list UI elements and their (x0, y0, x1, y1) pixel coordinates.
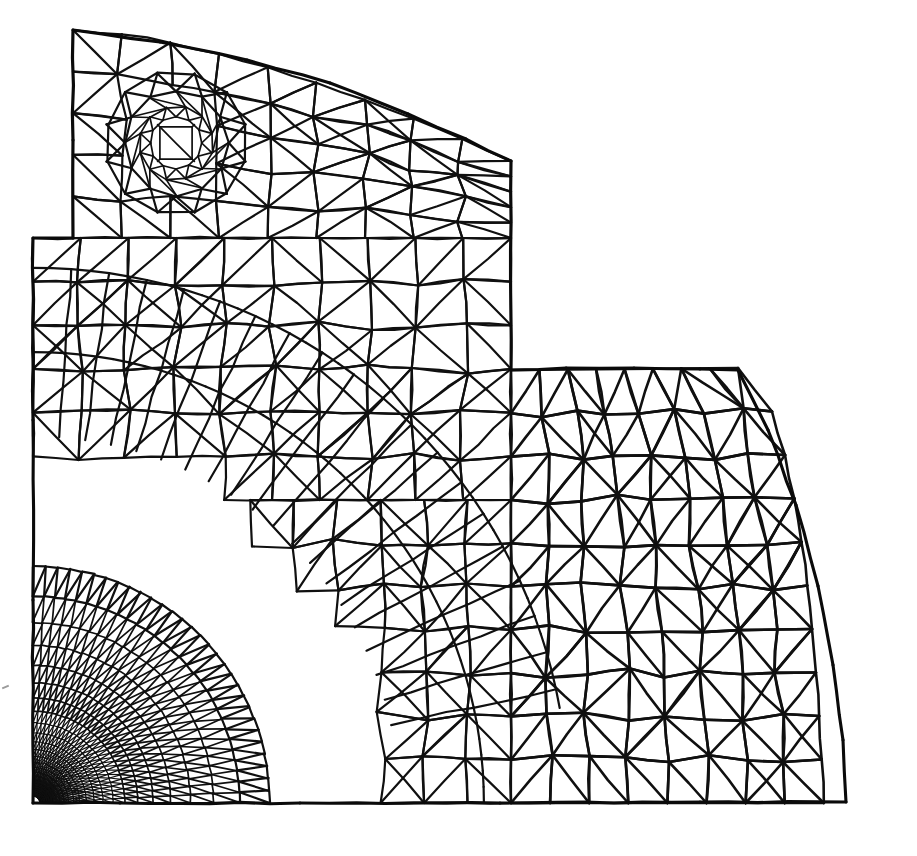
mesh-edge (69, 670, 76, 672)
mesh-edge (42, 645, 50, 647)
mesh-edge (226, 729, 259, 730)
mesh-edge (95, 735, 98, 738)
mesh-edge (777, 629, 812, 630)
mesh-edge (739, 630, 743, 674)
mesh-edge (584, 495, 617, 547)
mesh-edge (151, 784, 152, 791)
mesh-edge (700, 671, 705, 720)
mesh-edge (102, 794, 112, 795)
mesh-canvas (0, 0, 917, 856)
mesh-edge (322, 281, 370, 283)
mesh-edge (166, 768, 188, 771)
mesh-edge (268, 172, 313, 207)
mesh-edge (700, 630, 739, 671)
mesh-edge (367, 125, 410, 141)
mesh-edge (467, 323, 511, 369)
mesh-edge (583, 675, 588, 713)
mesh-edge (243, 695, 249, 706)
mesh-edge (384, 399, 398, 412)
mesh-edge (125, 143, 131, 168)
mesh-edge (106, 578, 118, 582)
mesh-edge (192, 627, 200, 635)
mesh-edge (236, 753, 265, 760)
mesh-edge (511, 543, 549, 546)
mesh-edge (214, 92, 217, 126)
mesh-edge (124, 457, 177, 458)
mesh-edge (333, 539, 339, 590)
mesh-edge (220, 393, 235, 400)
mesh-edge (189, 165, 202, 169)
mesh-edge (333, 500, 338, 539)
mesh-edge (131, 652, 139, 657)
mesh-edge (73, 155, 121, 202)
mesh-edge (106, 639, 115, 642)
mesh-edge (219, 207, 268, 238)
domain-boundary-edge (73, 30, 160, 42)
mesh-edge (163, 166, 176, 169)
mesh-edge (152, 734, 155, 740)
mesh-edge (124, 410, 131, 458)
mesh-edge (363, 153, 370, 178)
mesh-edge (150, 767, 167, 772)
mesh-edge (73, 196, 122, 238)
mesh-edge (784, 714, 819, 716)
mesh-edge (409, 140, 410, 170)
mesh-edge (212, 781, 238, 784)
mesh-edge (146, 663, 153, 669)
mesh-edge (625, 369, 639, 414)
domain-boundary-edge (843, 740, 846, 802)
mesh-edge (224, 457, 226, 500)
mesh-edge (185, 763, 210, 766)
mesh-edge (221, 323, 227, 367)
mesh-edge (651, 409, 674, 455)
mesh-edge (271, 138, 272, 174)
mesh-edge (374, 508, 384, 520)
mesh-edge (465, 759, 511, 803)
mesh-edge (553, 713, 584, 755)
mesh-edge (709, 721, 743, 755)
domain-boundary-edge (33, 420, 34, 600)
mesh-edge (436, 601, 443, 616)
mesh-edge (318, 457, 373, 460)
mesh-edge (184, 754, 207, 756)
mesh-edge (180, 747, 205, 748)
mesh-edge (117, 43, 170, 74)
mesh-edge (704, 720, 709, 756)
mesh-edge (182, 619, 191, 627)
mesh-edge (783, 714, 784, 762)
mesh-edge (424, 759, 465, 803)
mesh-edge (742, 674, 743, 721)
mesh-edge (665, 717, 709, 756)
mesh-edge (143, 754, 146, 760)
mesh-edge (535, 616, 541, 634)
mesh-edge (625, 757, 667, 803)
mesh-edge (546, 546, 549, 584)
mesh-edge (511, 417, 542, 456)
mesh-edge (520, 581, 528, 599)
mesh-edge (584, 456, 613, 460)
mesh-edge (483, 771, 484, 787)
mesh-edge (624, 545, 656, 547)
mesh-edge (699, 589, 703, 632)
mesh-edge (72, 756, 74, 758)
mesh-edge (335, 590, 338, 626)
mesh-edge (58, 685, 64, 687)
mesh-edge (77, 280, 128, 282)
mesh-edge (412, 186, 466, 196)
mesh-edge (542, 370, 568, 418)
mesh-edge (227, 286, 275, 323)
mesh-edge (229, 124, 246, 143)
mesh-edge (151, 130, 153, 143)
mesh-edge (410, 196, 466, 215)
mesh-edge (748, 761, 783, 763)
mesh-edge (237, 770, 268, 778)
mesh-edge (117, 34, 122, 74)
mesh-edge (370, 238, 415, 281)
mesh-edge (222, 285, 274, 286)
domain-boundary-edge (511, 161, 512, 370)
mesh-edge (424, 500, 467, 501)
mesh-edge (783, 762, 785, 803)
mesh-edge (213, 793, 239, 794)
mesh-edge (115, 642, 123, 647)
mesh-edge (481, 755, 483, 771)
